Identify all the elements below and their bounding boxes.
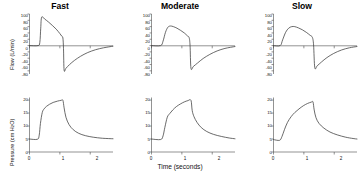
- waveform-curves: [30, 17, 358, 141]
- curve-flow-fast: [30, 17, 114, 72]
- flow-ytick-marks: [28, 14, 274, 71]
- flow-xtick-marks: [30, 46, 335, 49]
- curve-flow-slow: [274, 26, 358, 69]
- pressure-xtick-marks: [30, 152, 335, 155]
- curve-pressure-moderate: [152, 100, 236, 140]
- pressure-axes-group: [28, 98, 358, 155]
- curve-flow-moderate: [152, 26, 236, 70]
- curve-pressure-slow: [274, 101, 358, 140]
- ventilator-waveform-figure: Fast Moderate Slow Flow (L/min) Pressure…: [0, 0, 364, 177]
- plot-canvas: [0, 0, 364, 177]
- curve-pressure-fast: [30, 100, 114, 140]
- flow-axes-group: [28, 14, 358, 74]
